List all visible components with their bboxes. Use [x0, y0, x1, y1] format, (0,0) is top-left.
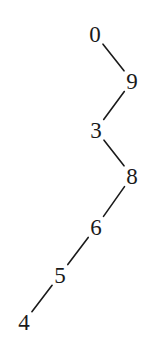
edge-0-9 — [103, 44, 124, 71]
node-0: 0 — [89, 22, 101, 47]
node-5: 5 — [54, 263, 66, 288]
node-9: 9 — [126, 69, 138, 94]
edge-3-8 — [104, 140, 124, 166]
node-4: 4 — [18, 310, 30, 335]
edge-5-4 — [32, 285, 52, 311]
edge-6-5 — [68, 237, 88, 264]
node-3: 3 — [90, 118, 102, 143]
tree-diagram: 0 9 3 8 6 5 4 — [0, 0, 154, 351]
edge-9-3 — [104, 92, 125, 120]
edges-group — [32, 44, 125, 312]
edge-8-6 — [104, 187, 125, 217]
node-6: 6 — [90, 215, 102, 240]
node-8: 8 — [126, 164, 138, 189]
nodes-group: 0 9 3 8 6 5 4 — [18, 22, 138, 335]
